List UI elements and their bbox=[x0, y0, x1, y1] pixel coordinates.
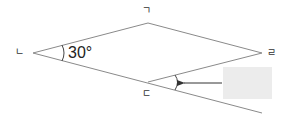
angle-arc-bottom bbox=[175, 75, 178, 90]
vertex-label-right: ㄹ bbox=[267, 48, 276, 58]
vertex-label-left: ㄴ bbox=[15, 47, 24, 57]
angle-value-30: 30° bbox=[68, 45, 92, 61]
angle-arc-left bbox=[62, 45, 64, 61]
side-top-right bbox=[148, 23, 262, 53]
vertex-label-top: ㄱ bbox=[142, 6, 151, 16]
answer-input-box[interactable] bbox=[223, 67, 272, 99]
rhombus-diagram bbox=[0, 0, 299, 122]
vertex-label-bottom: ㄷ bbox=[142, 89, 151, 99]
